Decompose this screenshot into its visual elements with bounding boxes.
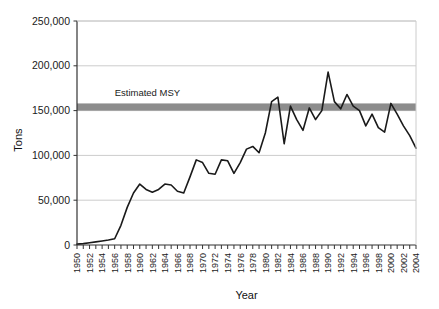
- x-tick-label-1990: 1990: [323, 253, 333, 273]
- chart-container: 050,000100,000150,000200,000250,000Estim…: [0, 0, 439, 309]
- y-tick-label-200000: 200,000: [32, 59, 70, 71]
- x-tick-label-1976: 1976: [236, 253, 246, 273]
- x-tick-label-1992: 1992: [336, 253, 346, 273]
- y-axis-title: Tons: [12, 128, 24, 152]
- x-tick-label-1988: 1988: [311, 253, 321, 273]
- x-tick-label-1970: 1970: [198, 253, 208, 273]
- x-tick-label-1980: 1980: [261, 253, 271, 273]
- plot-area-background: [77, 21, 416, 245]
- x-tick-label-1964: 1964: [160, 253, 170, 273]
- x-tick-label-1954: 1954: [97, 253, 107, 273]
- x-tick-label-1978: 1978: [248, 253, 258, 273]
- y-tick-label-100000: 100,000: [32, 149, 70, 161]
- y-tick-label-0: 0: [64, 239, 70, 251]
- x-tick-label-1996: 1996: [361, 253, 371, 273]
- estimated-msy-label: Estimated MSY: [115, 87, 181, 98]
- x-tick-label-2002: 2002: [399, 253, 409, 273]
- x-tick-label-1962: 1962: [148, 253, 158, 273]
- x-tick-label-1950: 1950: [72, 253, 82, 273]
- y-axis-tick-labels: 050,000100,000150,000200,000250,000: [32, 15, 70, 251]
- x-tick-label-1956: 1956: [110, 253, 120, 273]
- y-tick-label-250000: 250,000: [32, 15, 70, 27]
- x-tick-label-2000: 2000: [386, 253, 396, 273]
- x-tick-label-1982: 1982: [273, 253, 283, 273]
- line-chart: 050,000100,000150,000200,000250,000Estim…: [0, 0, 439, 309]
- x-axis-tick-labels: 1950195219541956195819601962196419661968…: [72, 253, 421, 273]
- x-tick-label-1966: 1966: [173, 253, 183, 273]
- x-tick-label-1968: 1968: [185, 253, 195, 273]
- x-axis-title: Year: [235, 289, 258, 301]
- x-tick-label-1972: 1972: [210, 253, 220, 273]
- x-tick-label-1974: 1974: [223, 253, 233, 273]
- y-tick-label-50000: 50,000: [38, 194, 70, 206]
- x-axis-ticks: [77, 245, 416, 249]
- x-tick-label-1986: 1986: [298, 253, 308, 273]
- x-tick-label-1994: 1994: [349, 253, 359, 273]
- y-tick-label-150000: 150,000: [32, 104, 70, 116]
- estimated-msy-band: [77, 103, 416, 110]
- x-tick-label-1952: 1952: [85, 253, 95, 273]
- x-tick-label-1958: 1958: [123, 253, 133, 273]
- x-tick-label-2004: 2004: [411, 253, 421, 273]
- x-tick-label-1960: 1960: [135, 253, 145, 273]
- x-tick-label-1998: 1998: [374, 253, 384, 273]
- x-tick-label-1984: 1984: [286, 253, 296, 273]
